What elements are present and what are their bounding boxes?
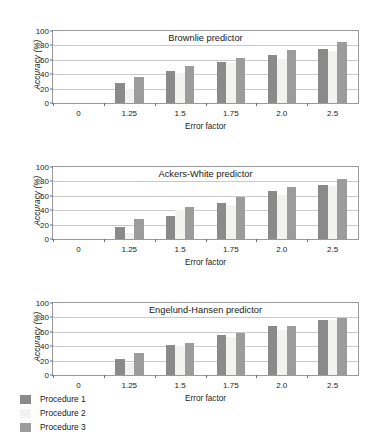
y-tick-mark (50, 74, 53, 75)
bar (125, 363, 135, 375)
bar (175, 346, 185, 375)
legend-item-label: Procedure 1 (40, 394, 86, 404)
x-tick-mark (256, 375, 257, 378)
gridline (53, 361, 358, 362)
y-tick-label: 40 (40, 342, 49, 351)
bar (185, 343, 195, 375)
x-tick-mark (206, 239, 207, 242)
x-tick-label: 1.25 (121, 381, 137, 390)
bar (337, 42, 347, 103)
y-tick-mark (50, 31, 53, 32)
chart-title: Engelund-Hansen predictor (53, 305, 358, 315)
y-tick-mark (50, 331, 53, 332)
bar (134, 77, 144, 103)
bar (115, 359, 125, 375)
x-tick-label: 0 (76, 245, 80, 254)
y-tick-label: 80 (40, 41, 49, 50)
legend-item-label: Procedure 2 (40, 408, 86, 418)
y-tick-mark (50, 45, 53, 46)
y-tick-mark (50, 360, 53, 361)
x-tick-label: 2.0 (276, 381, 287, 390)
bar (328, 320, 338, 375)
x-tick-mark (206, 375, 207, 378)
chart-ackers-white-predictor: Accuracy (%) Ackers-White predictor 0204… (0, 146, 377, 279)
bar (217, 335, 227, 375)
gridline (53, 74, 358, 75)
bar (268, 326, 278, 375)
x-tick-label: 0 (76, 109, 80, 118)
x-tick-mark (307, 239, 308, 242)
bar (328, 186, 338, 239)
x-tick-label: 1.5 (175, 109, 186, 118)
gridline (53, 225, 358, 226)
bar (328, 51, 338, 103)
x-tick-mark (256, 239, 257, 242)
x-tick-label: 2.5 (327, 381, 338, 390)
gridline (53, 196, 358, 197)
bar (226, 205, 236, 239)
bar (287, 187, 297, 239)
bar (268, 191, 278, 239)
x-tick-label: 1.25 (121, 109, 137, 118)
bar (236, 58, 246, 103)
y-tick-mark (50, 167, 53, 168)
x-tick-mark (155, 375, 156, 378)
bar (277, 59, 287, 103)
y-tick-mark (50, 195, 53, 196)
y-tick-mark (50, 181, 53, 182)
bar (175, 73, 185, 103)
bar (217, 203, 227, 239)
legend-item-procedure-2: Procedure 2 (20, 406, 86, 420)
x-tick-label: 1.5 (175, 381, 186, 390)
bar (166, 71, 176, 103)
bar (337, 318, 347, 375)
bar (185, 207, 195, 239)
legend-swatch-icon (20, 423, 31, 432)
gridline (53, 210, 358, 211)
bar (337, 179, 347, 239)
y-tick-label: 20 (40, 84, 49, 93)
legend-item-procedure-3: Procedure 3 (20, 420, 86, 434)
y-tick-mark (50, 224, 53, 225)
x-axis-label: Error factor (52, 122, 359, 131)
bar (217, 62, 227, 103)
bar (125, 233, 135, 239)
gridline (53, 317, 358, 318)
y-tick-mark (50, 210, 53, 211)
bar (134, 353, 144, 375)
figure-bar-chart-panel: Accuracy (%) Brownlie predictor 02040608… (0, 0, 377, 444)
bar (287, 50, 297, 103)
x-tick-mark (104, 239, 105, 242)
legend-swatch-icon (20, 395, 31, 404)
bar (115, 227, 125, 239)
bar (134, 219, 144, 239)
bar (236, 333, 246, 375)
bar (318, 320, 328, 375)
y-tick-mark (50, 303, 53, 304)
bar (226, 337, 236, 375)
y-tick-mark (50, 88, 53, 89)
gridline (53, 60, 358, 61)
gridline (53, 181, 358, 182)
x-tick-mark (155, 103, 156, 106)
bar (125, 89, 135, 103)
y-tick-mark (50, 346, 53, 347)
plot-area: Ackers-White predictor 02040608010001.25… (52, 166, 359, 240)
y-tick-label: 20 (40, 356, 49, 365)
y-tick-label: 80 (40, 177, 49, 186)
y-tick-label: 100 (36, 27, 49, 36)
bar (115, 83, 125, 103)
legend-item-procedure-1: Procedure 1 (20, 392, 86, 406)
legend-swatch-icon (20, 409, 31, 418)
legend-item-label: Procedure 3 (40, 422, 86, 432)
y-tick-mark (50, 317, 53, 318)
bar (287, 326, 297, 375)
x-tick-mark (206, 103, 207, 106)
y-tick-label: 60 (40, 191, 49, 200)
x-tick-label: 1.5 (175, 245, 186, 254)
x-tick-label: 2.5 (327, 109, 338, 118)
x-axis-label: Error factor (52, 394, 359, 403)
gridline (53, 346, 358, 347)
x-tick-mark (104, 103, 105, 106)
x-tick-mark (53, 239, 54, 242)
